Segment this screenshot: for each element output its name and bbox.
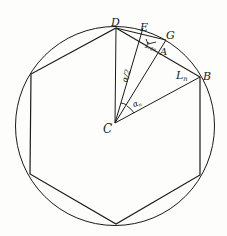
radius-CB <box>115 77 200 123</box>
geometry-diagram: D E G A B C L2n Ln α/2 αn <box>0 0 227 236</box>
segment-label-Ln: Ln <box>176 70 188 82</box>
Ln-sub: n <box>183 75 187 83</box>
inscribed-hexagon <box>30 28 200 224</box>
point-label-A: A <box>160 47 167 57</box>
point-label-D: D <box>111 17 120 28</box>
circumcircle <box>16 27 215 226</box>
point-label-B: B <box>203 71 211 82</box>
L2n-sub: 2n <box>149 46 156 52</box>
diagram-drawing <box>0 0 227 236</box>
point-label-C: C <box>103 123 112 135</box>
point-label-G: G <box>166 30 175 41</box>
radius-CD <box>115 28 116 123</box>
point-label-E: E <box>140 22 148 33</box>
